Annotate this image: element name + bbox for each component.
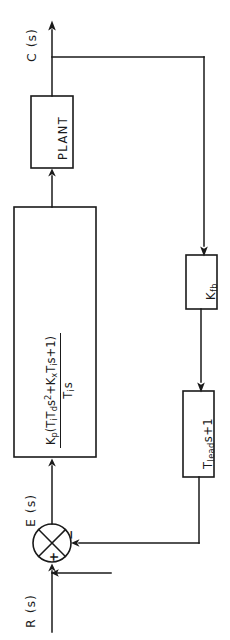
- arrow-into-sum-minus: [71, 539, 80, 547]
- lead-compensator-block-outline: [183, 391, 214, 477]
- feedback-gain-block-outline: [186, 255, 217, 309]
- block-diagram-graphics: [0, 0, 230, 640]
- plant-block-outline: [31, 96, 73, 168]
- arrow-output-c: [48, 21, 56, 31]
- controller-block-outline: [14, 207, 96, 457]
- diagram-canvas: C (s) PLANT Kp(TiTds2+KxTis+1) Ti s E (s…: [0, 0, 230, 640]
